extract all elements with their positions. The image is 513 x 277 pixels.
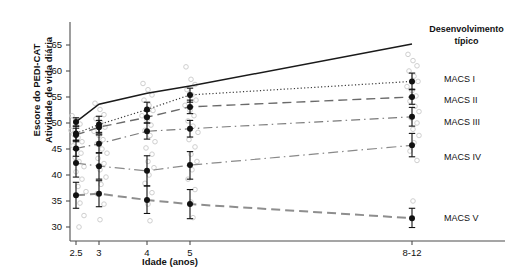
scatter-point	[193, 187, 198, 192]
data-point-marker	[96, 191, 102, 197]
data-point-marker	[73, 160, 79, 166]
data-point-marker	[96, 163, 102, 169]
series-lines	[76, 44, 412, 218]
scatter-cloud	[69, 52, 422, 229]
series-markers	[73, 73, 415, 227]
data-point-marker	[409, 142, 415, 148]
scatter-point	[105, 151, 110, 156]
scatter-point	[104, 175, 109, 180]
scatter-point	[194, 98, 199, 103]
scatter-point	[150, 190, 155, 195]
scatter-point	[84, 189, 89, 194]
scatter-point	[196, 130, 201, 135]
scatter-point	[417, 109, 422, 114]
scatter-point	[153, 139, 158, 144]
scatter-point	[415, 121, 420, 126]
data-point-marker	[409, 94, 415, 100]
scatter-point	[69, 128, 74, 133]
scatter-point	[411, 127, 416, 132]
scatter-point	[98, 107, 103, 112]
scatter-point	[102, 161, 107, 166]
scatter-point	[191, 215, 196, 220]
scatter-point	[195, 159, 200, 164]
scatter-point	[189, 152, 194, 157]
scatter-point	[417, 133, 422, 138]
series-line	[76, 117, 412, 149]
data-point-marker	[144, 168, 150, 174]
data-point-marker	[73, 119, 79, 125]
data-point-marker	[144, 114, 150, 120]
scatter-point	[146, 87, 151, 92]
scatter-point	[189, 77, 194, 82]
data-point-marker	[187, 201, 193, 207]
scatter-point	[101, 137, 106, 142]
scatter-point	[78, 201, 83, 206]
scatter-point	[140, 113, 145, 118]
series-line	[76, 145, 412, 170]
series-line	[76, 97, 412, 135]
scatter-point	[144, 146, 149, 151]
data-point-marker	[409, 78, 415, 84]
scatter-point	[102, 112, 107, 117]
scatter-point	[80, 139, 85, 144]
scatter-point	[82, 164, 87, 169]
scatter-point	[406, 52, 411, 57]
data-point-marker	[144, 197, 150, 203]
data-point-marker	[409, 114, 415, 120]
scatter-point	[411, 199, 416, 204]
scatter-point	[146, 159, 151, 164]
data-point-marker	[187, 126, 193, 132]
data-point-marker	[73, 192, 79, 198]
data-point-marker	[96, 124, 102, 130]
scatter-point	[96, 156, 101, 161]
scatter-point	[187, 137, 192, 142]
scatter-point	[100, 147, 105, 152]
scatter-point	[151, 108, 156, 113]
scatter-point	[93, 101, 98, 106]
scatter-point	[150, 152, 155, 157]
scatter-point	[193, 145, 198, 150]
series-line	[76, 44, 412, 122]
scatter-point	[411, 58, 416, 63]
scatter-point	[405, 84, 410, 89]
scatter-point	[184, 65, 189, 70]
data-point-marker	[187, 92, 193, 98]
scatter-point	[98, 217, 103, 222]
data-point-marker	[144, 128, 150, 134]
axes	[66, 22, 505, 245]
data-point-marker	[96, 141, 102, 147]
scatter-point	[415, 64, 420, 69]
scatter-point	[141, 81, 146, 86]
scatter-point	[416, 79, 421, 84]
scatter-point	[148, 218, 153, 223]
scatter-point	[77, 225, 82, 230]
scatter-point	[82, 213, 87, 218]
scatter-point	[73, 155, 78, 160]
scatter-point	[102, 202, 107, 207]
plot-area	[0, 0, 513, 277]
chart-figure: Escore do PEDI-CAT Atividade de vida diá…	[0, 0, 513, 277]
data-point-marker	[187, 162, 193, 168]
data-point-marker	[187, 104, 193, 110]
scatter-point	[183, 103, 188, 108]
scatter-point	[79, 151, 84, 156]
scatter-point	[80, 177, 85, 182]
data-point-marker	[73, 132, 79, 138]
series-line	[76, 194, 412, 218]
scatter-point	[415, 158, 420, 163]
data-point-marker	[409, 215, 415, 221]
